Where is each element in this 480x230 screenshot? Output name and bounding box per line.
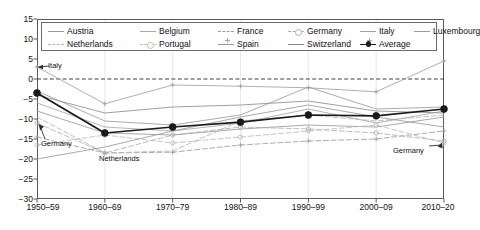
x-tick-label: 1960–69 [88, 203, 121, 212]
annotation-label: Italy [48, 62, 62, 70]
x-axis-tick-labels: 1950–591960–691970–791980–891990–992000–… [0, 203, 465, 219]
legend-label: Belgium [159, 27, 190, 36]
legend-item-portugal[interactable]: Portugal [140, 38, 191, 51]
legend-swatch-icon [288, 39, 304, 49]
legend-swatch-icon [218, 26, 234, 36]
legend-label: Netherlands [67, 40, 113, 49]
legend-item-luxembourg[interactable]: Luxembourg [414, 25, 480, 38]
legend-swatch-icon [48, 26, 64, 36]
legend-item-spain[interactable]: Spain [218, 38, 259, 51]
annotation-label: Germany [41, 140, 72, 148]
legend-item-germany[interactable]: Germany [288, 25, 342, 38]
legend-swatch-icon [360, 39, 376, 49]
x-tick-label: 1980–89 [224, 203, 257, 212]
legend: AustriaBelgiumFranceGermanyItalyLuxembou… [41, 22, 437, 51]
legend-label: Switzerland [307, 40, 351, 49]
x-tick-label: 1990–99 [292, 203, 325, 212]
legend-row: NetherlandsPortugalSpainSwitzerlandAvera… [42, 38, 436, 51]
legend-swatch-icon [140, 26, 156, 36]
legend-label: Spain [237, 40, 259, 49]
x-tick-label: 1950–59 [26, 203, 59, 212]
x-tick-label: 1970–79 [156, 203, 189, 212]
annotation-label: Netherlands [99, 155, 139, 163]
legend-item-average[interactable]: Average [360, 38, 411, 51]
legend-item-austria[interactable]: Austria [48, 25, 93, 38]
legend-label: Average [379, 40, 411, 49]
annotation-label: Germany [393, 147, 424, 155]
legend-label: Italy [379, 27, 395, 36]
legend-label: France [237, 27, 263, 36]
x-tick-label: 2010–20 [421, 203, 454, 212]
legend-item-italy[interactable]: Italy [360, 25, 395, 38]
legend-label: Germany [307, 27, 342, 36]
legend-item-netherlands[interactable]: Netherlands [48, 38, 113, 51]
legend-swatch-icon [288, 26, 304, 36]
legend-item-switzerland[interactable]: Switzerland [288, 38, 351, 51]
legend-row: AustriaBelgiumFranceGermanyItalyLuxembou… [42, 25, 436, 38]
legend-swatch-icon [48, 39, 64, 49]
legend-label: Portugal [159, 40, 191, 49]
legend-label: Luxembourg [433, 27, 480, 36]
legend-item-belgium[interactable]: Belgium [140, 25, 190, 38]
x-tick-label: 2000–09 [360, 203, 393, 212]
legend-swatch-icon [414, 26, 430, 36]
legend-swatch-icon [218, 39, 234, 49]
legend-swatch-icon [140, 39, 156, 49]
legend-label: Austria [67, 27, 93, 36]
legend-swatch-icon [360, 26, 376, 36]
legend-item-france[interactable]: France [218, 25, 263, 38]
